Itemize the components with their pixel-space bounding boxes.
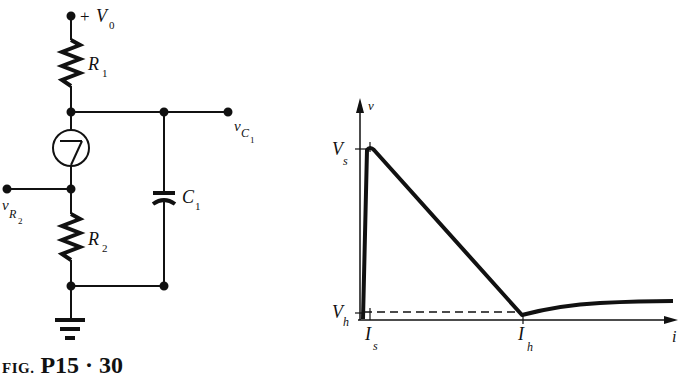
vr2-label: v <box>2 197 9 213</box>
vr2-subscript: R <box>8 207 17 221</box>
vh-subscript: h <box>343 315 349 329</box>
r2-subscript: 2 <box>102 242 108 254</box>
x-axis-arrow-icon <box>664 316 678 324</box>
vc1-terminal <box>225 109 232 116</box>
r2-label: R <box>87 229 99 249</box>
supply-subscript: 0 <box>109 19 115 31</box>
r1-label: R <box>87 54 99 74</box>
caption-prefix: FIG. <box>2 360 34 376</box>
c1-subscript: 1 <box>195 200 201 212</box>
circuit-diagram <box>4 13 232 339</box>
vr2-subsub: 2 <box>18 216 23 226</box>
ground-icon <box>55 320 85 338</box>
r1-subscript: 1 <box>102 67 108 79</box>
vi-curve <box>363 148 673 319</box>
is-label: I <box>364 324 372 344</box>
vc1-subsub: 1 <box>250 135 255 145</box>
vc1-label: v <box>234 118 241 134</box>
c1-label: C <box>182 187 195 207</box>
y-axis-arrow-icon <box>356 98 364 113</box>
ih-subscript: h <box>527 340 533 354</box>
vi-graph <box>355 98 678 324</box>
resistor-r1-icon <box>62 40 80 86</box>
x-axis-label: i <box>672 328 676 345</box>
vc1-subscript: C <box>241 126 250 140</box>
supply-label: V <box>96 6 109 26</box>
resistor-r2-icon <box>62 214 80 260</box>
caption-number: P15 · 30 <box>40 352 123 378</box>
supply-sign: + <box>80 7 90 26</box>
vs-subscript: s <box>343 154 348 168</box>
figure-canvas: + V 0 R 1 R 2 C 1 v C 1 v R 2 v i V s V … <box>0 0 679 384</box>
shockley-diode-icon <box>53 130 89 166</box>
figure-caption: FIG. P15 · 30 <box>2 352 123 379</box>
is-subscript: s <box>373 339 378 353</box>
ih-label: I <box>517 324 525 344</box>
y-axis-label: v <box>368 98 374 113</box>
vr2-terminal <box>4 186 11 193</box>
